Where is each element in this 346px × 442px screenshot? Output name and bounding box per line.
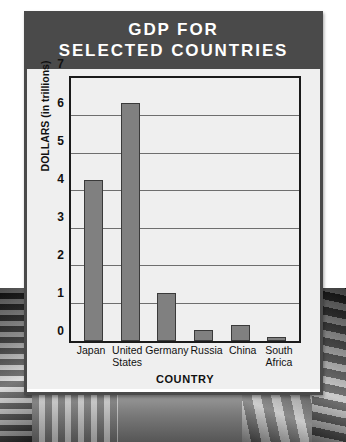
bar-slot bbox=[258, 78, 295, 341]
x-axis-tick-labels: JapanUnitedStatesGermanyRussiaChinaSouth… bbox=[69, 345, 301, 369]
y-axis-tick-label: 0 bbox=[57, 325, 64, 337]
chart-title: GDP FOR SELECTED COUNTRIES bbox=[27, 14, 320, 69]
bar-russia[interactable] bbox=[194, 330, 213, 341]
y-axis-tick-label: 5 bbox=[57, 135, 64, 147]
bar-slot bbox=[222, 78, 259, 341]
x-axis-label-line: Africa bbox=[261, 357, 297, 369]
y-axis-tick-label: 4 bbox=[57, 173, 64, 185]
bar-slot bbox=[148, 78, 185, 341]
y-axis-title-holder: DOLLARS (in trillions) bbox=[41, 129, 57, 289]
y-axis-tick-label: 1 bbox=[57, 287, 64, 299]
plot-wrapper: 01234567 bbox=[69, 76, 301, 343]
bar-china[interactable] bbox=[231, 325, 250, 341]
x-axis-title: COUNTRY bbox=[69, 373, 301, 385]
page-top-text-fragment bbox=[8, 0, 208, 11]
bar-germany[interactable] bbox=[157, 293, 176, 342]
x-axis-label-germany: Germany bbox=[145, 345, 188, 369]
x-axis-label-united-states: UnitedStates bbox=[109, 345, 145, 369]
x-axis-label-line: States bbox=[109, 357, 145, 369]
y-axis-tick-label: 6 bbox=[57, 97, 64, 109]
bars-layer bbox=[71, 78, 299, 341]
bar-south-africa[interactable] bbox=[267, 337, 286, 342]
x-axis-label-line: Japan bbox=[73, 345, 109, 357]
bar-united-states[interactable] bbox=[121, 103, 140, 342]
x-axis-label-line: China bbox=[225, 345, 261, 357]
x-axis-label-russia: Russia bbox=[189, 345, 225, 369]
x-axis-label-line: Germany bbox=[145, 345, 188, 357]
y-axis-tick-label: 7 bbox=[57, 58, 64, 70]
x-axis-label-line: Russia bbox=[189, 345, 225, 357]
y-axis-title: DOLLARS (in trillions) bbox=[39, 41, 51, 191]
plot-area bbox=[69, 76, 301, 343]
y-axis-tick-label: 2 bbox=[57, 249, 64, 261]
chart-title-line-1: GDP FOR bbox=[31, 20, 316, 41]
bar-slot bbox=[75, 78, 112, 341]
x-axis-label-china: China bbox=[225, 345, 261, 369]
chart-card: GDP FOR SELECTED COUNTRIES DOLLARS (in t… bbox=[24, 11, 323, 395]
bar-slot bbox=[185, 78, 222, 341]
x-axis-label-south-africa: SouthAfrica bbox=[261, 345, 297, 369]
chart-title-line-2: SELECTED COUNTRIES bbox=[31, 41, 316, 62]
bar-slot bbox=[112, 78, 149, 341]
bar-japan[interactable] bbox=[84, 180, 103, 342]
x-axis-label-japan: Japan bbox=[73, 345, 109, 369]
y-axis-tick-label: 3 bbox=[57, 211, 64, 223]
chart-body: DOLLARS (in trillions) 01234567 JapanUni… bbox=[27, 69, 320, 389]
